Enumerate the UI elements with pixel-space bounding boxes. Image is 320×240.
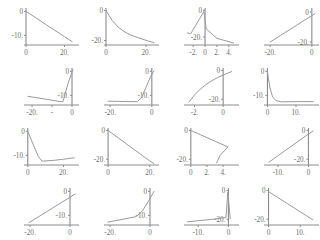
x-tick-label: 2. [204, 169, 210, 177]
data-series-line [269, 131, 313, 162]
chart-panel: -20.00-10. [80, 60, 160, 120]
chart-panel: 020.0-10. [0, 0, 80, 60]
x-tick-label: -2. [189, 49, 197, 57]
data-series-line [29, 194, 75, 223]
chart-panel: 010.0-20. [240, 180, 320, 240]
x-tick-label: 0 [307, 169, 311, 177]
x-tick-label: 0 [148, 229, 152, 237]
y-tick-label: -10. [253, 92, 265, 100]
x-tick-label: 4. [226, 49, 232, 57]
x-tick-label: -20. [104, 229, 116, 237]
x-tick-label: 0 [70, 109, 74, 117]
chart-panel: -2.02.4.0-20. [160, 0, 240, 60]
x-tick-label: 4. [220, 169, 226, 177]
y-tick-label: 0 [305, 9, 309, 17]
y-tick-label: -20. [209, 96, 221, 104]
y-tick-label: -20. [94, 156, 106, 164]
y-tick-label: -20. [297, 39, 309, 47]
chart-panel: -20.00-20. [240, 0, 320, 60]
y-tick-label: -10. [56, 212, 68, 220]
x-tick-label: 20. [145, 169, 154, 177]
panel-plot: 010.0-20. [240, 180, 320, 240]
x-tick-label: -20. [26, 109, 38, 117]
y-tick-label: 0 [217, 67, 221, 75]
x-tick-label: -10. [272, 169, 284, 177]
x-tick-label: 0 [26, 169, 30, 177]
x-tick-label: 20. [60, 49, 69, 57]
x-tick-label: -20. [104, 109, 116, 117]
panel-plot: -2.02.4.0-20. [160, 0, 240, 60]
data-series-line [191, 130, 228, 162]
y-tick-label: -20. [176, 156, 188, 164]
panel-plot: -20.00-10. [0, 180, 80, 240]
x-tick-label: 0 [150, 109, 154, 117]
chart-panel: -2.00-20. [160, 60, 240, 120]
y-tick-label: 0 [65, 68, 69, 76]
y-tick-label: 0 [184, 127, 188, 135]
x-tick-label: 0 [227, 229, 231, 237]
x-tick-label: -20. [264, 49, 276, 57]
y-tick-label: 0 [63, 188, 67, 196]
panel-plot: -2.00-20. [160, 60, 240, 120]
chart-panel: -20.-00-10. [0, 60, 80, 120]
x-tick-label: -10. [192, 229, 204, 237]
chart-panel: -10.00-20. [240, 120, 320, 180]
data-series-line [108, 191, 154, 222]
x-tick-label: 0 [221, 109, 225, 117]
x-tick-label: 0 [106, 169, 110, 177]
panel-plot: 020.0-20. [80, 120, 160, 180]
y-tick-label: -20. [191, 34, 203, 42]
y-tick-label: -10. [12, 32, 24, 40]
panel-plot: 020.0-10. [0, 0, 80, 60]
y-tick-label: -20. [294, 156, 306, 164]
x-tick-label: 20. [59, 169, 68, 177]
x-tick-label: 0 [68, 229, 72, 237]
y-tick-label: 0 [261, 68, 265, 76]
x-tick-label: 0 [203, 49, 207, 57]
chart-panel: 020.0-20. [80, 120, 160, 180]
panel-plot: -10.00-20. [240, 120, 320, 180]
chart-panel: 020.0-10. [0, 120, 80, 180]
chart-panel: 02.4.0-20. [160, 120, 240, 180]
data-series-line [188, 192, 231, 222]
panel-plot: -20.00-10. [80, 60, 160, 120]
panel-plot: -10.00-20. [160, 180, 240, 240]
x-tick-label: 0 [266, 109, 270, 117]
data-series-line [269, 192, 313, 220]
chart-panel: -20.00-10. [80, 180, 160, 240]
x-tick-label: 0 [104, 49, 108, 57]
y-tick-label: -10. [13, 152, 25, 160]
y-tick-label: 0 [99, 7, 103, 15]
x-tick-label: 0 [189, 169, 193, 177]
y-tick-label: 0 [143, 188, 147, 196]
chart-panel: 020.0-20. [80, 0, 160, 60]
y-tick-label: 0 [198, 7, 202, 15]
data-series-line [28, 131, 74, 161]
chart-panel: -20.00-10. [0, 180, 80, 240]
panel-plot: 02.4.0-20. [160, 120, 240, 180]
panel-plot: -20.-00-10. [0, 60, 80, 120]
y-tick-label: 0 [145, 68, 149, 76]
data-series-line [26, 11, 72, 41]
y-tick-label: 0 [222, 187, 226, 195]
data-series-line [108, 130, 154, 163]
chart-panel: 010.0-10. [240, 60, 320, 120]
x-tick-label: 10. [296, 229, 305, 237]
y-tick-label: -20. [92, 37, 104, 45]
y-tick-label: 0 [262, 187, 266, 195]
data-series-line [267, 71, 313, 101]
data-series-line [106, 11, 154, 43]
x-tick-label: 0 [267, 229, 271, 237]
y-tick-label: 0 [21, 128, 25, 136]
x-tick-label: 0 [24, 49, 28, 57]
x-tick-label: 0 [310, 49, 314, 57]
panel-plot: 020.0-10. [0, 120, 80, 180]
panel-grid: 020.0-10.020.0-20.-2.02.4.0-20.-20.00-20… [0, 0, 320, 240]
x-tick-label: 2. [214, 49, 220, 57]
panel-plot: -20.00-20. [240, 0, 320, 60]
panel-plot: 010.0-10. [240, 60, 320, 120]
x-tick-label: -20. [24, 229, 36, 237]
x-tick-label: - [51, 109, 54, 117]
x-tick-label: -2. [191, 109, 199, 117]
y-tick-label: 0 [19, 8, 23, 16]
